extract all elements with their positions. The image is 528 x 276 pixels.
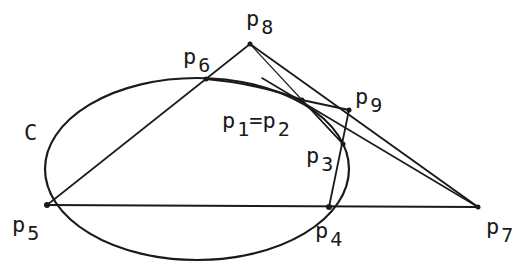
label-p7: p7 (486, 216, 513, 238)
label-p1-sub: 1 (237, 117, 249, 141)
label-p1-base: p (222, 108, 235, 133)
label-p5-base: p (12, 212, 25, 237)
point-p3 (341, 142, 346, 147)
label-p5: p5 (12, 214, 39, 236)
label-p9-base: p (355, 84, 368, 109)
geometry-figure (0, 0, 528, 276)
label-p8-base: p (246, 6, 259, 31)
point-p6 (204, 77, 209, 82)
point-p9 (347, 108, 352, 113)
point-p5 (44, 202, 50, 208)
label-p8-sub: 8 (261, 15, 273, 39)
label-p9-sub: 9 (370, 93, 382, 117)
label-p6-base: p (183, 44, 196, 69)
label-p4: p4 (315, 220, 342, 242)
label-p6-sub: 6 (198, 53, 210, 77)
line-p5-p8 (47, 44, 250, 205)
label-eq-p2: =p (249, 108, 276, 133)
label-p2-sub: 2 (278, 117, 290, 141)
label-p3-sub: 3 (321, 152, 333, 176)
label-p3: p3 (306, 145, 333, 167)
label-c: C (24, 122, 37, 144)
label-p5-sub: 5 (27, 221, 39, 245)
label-p7-base: p (486, 214, 499, 239)
label-p1-eq-p2: p1=p2 (222, 110, 290, 132)
label-p7-sub: 7 (501, 223, 513, 247)
point-p8 (248, 42, 253, 47)
label-p9: p9 (355, 86, 382, 108)
point-p1p2 (300, 98, 305, 103)
label-p3-base: p (306, 143, 319, 168)
label-p4-base: p (315, 218, 328, 243)
label-p6: p6 (183, 46, 210, 68)
point-p7 (476, 205, 481, 210)
diagram-canvas: C p8 p6 p1=p2 p9 p3 p4 p5 p7 (0, 0, 528, 276)
label-p8: p8 (246, 8, 273, 30)
conic-c (45, 78, 349, 260)
point-p4 (326, 204, 332, 210)
line-p5-p7 (47, 205, 478, 207)
label-p4-sub: 4 (330, 227, 342, 251)
